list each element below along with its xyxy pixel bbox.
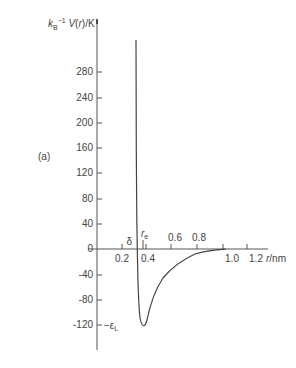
svg-text:1.0: 1.0 xyxy=(225,253,239,264)
svg-text:-120: -120 xyxy=(73,319,93,330)
r-e-annotation: re xyxy=(141,228,148,240)
svg-text:40: 40 xyxy=(82,218,94,229)
svg-text:0: 0 xyxy=(87,243,93,254)
y-tick-labels: 280 240 200 160 120 80 40 0 -40 -80 -120 xyxy=(73,66,93,330)
svg-text:280: 280 xyxy=(76,66,93,77)
svg-text:-80: -80 xyxy=(79,294,94,305)
svg-text:80: 80 xyxy=(82,193,94,204)
svg-text:160: 160 xyxy=(76,142,93,153)
potential-curve xyxy=(136,40,226,326)
svg-text:0.2: 0.2 xyxy=(115,253,129,264)
y-axis-label: kB−1 V(r)/K xyxy=(48,17,95,31)
svg-text:240: 240 xyxy=(76,92,93,103)
y-ticks xyxy=(97,72,102,325)
svg-text:0.4: 0.4 xyxy=(141,253,155,264)
svg-text:0.8: 0.8 xyxy=(192,232,206,243)
x-axis-label: r/nm xyxy=(266,253,286,264)
x-ticks xyxy=(122,240,247,249)
svg-text:0.6: 0.6 xyxy=(168,232,182,243)
svg-text:200: 200 xyxy=(76,117,93,128)
epsilon-annotation: −εL xyxy=(104,320,118,332)
panel-label: (a) xyxy=(38,151,50,162)
delta-annotation: δ xyxy=(126,236,132,247)
svg-text:-40: -40 xyxy=(79,269,94,280)
svg-text:120: 120 xyxy=(76,167,93,178)
svg-text:1.2: 1.2 xyxy=(249,253,263,264)
potential-energy-chart: (a) kB−1 V(r)/K 280 240 200 160 120 80 4… xyxy=(0,0,296,368)
